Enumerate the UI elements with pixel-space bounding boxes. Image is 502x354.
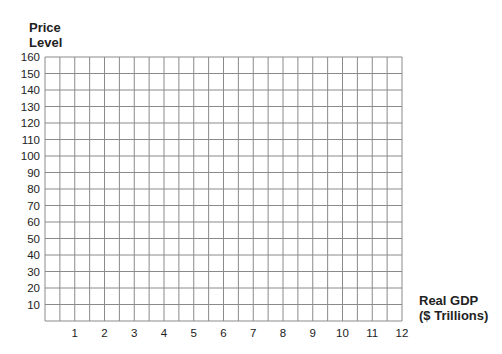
y-tick-label: 50: [0, 233, 40, 245]
x-tick-label: 9: [298, 327, 328, 339]
x-tick-label: 8: [268, 327, 298, 339]
x-tick-label: 1: [60, 327, 90, 339]
y-tick-label: 120: [0, 117, 40, 129]
y-tick-label: 110: [0, 134, 40, 146]
y-tick-label: 100: [0, 150, 40, 162]
y-tick-label: 80: [0, 183, 40, 195]
x-tick-label: 11: [357, 327, 387, 339]
x-tick-label: 6: [209, 327, 239, 339]
x-axis-label: Real GDP ($ Trillions): [419, 293, 488, 323]
y-tick-label: 70: [0, 200, 40, 212]
x-tick-label: 5: [179, 327, 209, 339]
x-tick-label: 10: [328, 327, 358, 339]
x-tick-label: 4: [149, 327, 179, 339]
y-tick-label: 30: [0, 266, 40, 278]
y-tick-label: 130: [0, 101, 40, 113]
x-tick-label: 7: [238, 327, 268, 339]
x-axis-label-line-1: Real GDP: [419, 293, 488, 308]
y-tick-label: 20: [0, 282, 40, 294]
y-tick-label: 160: [0, 51, 40, 63]
x-axis-label-line-2: ($ Trillions): [419, 308, 488, 323]
x-tick-label: 12: [387, 327, 417, 339]
y-tick-label: 10: [0, 299, 40, 311]
y-tick-label: 60: [0, 216, 40, 228]
y-tick-label: 40: [0, 249, 40, 261]
x-tick-label: 3: [119, 327, 149, 339]
y-tick-label: 150: [0, 68, 40, 80]
y-tick-label: 90: [0, 167, 40, 179]
y-tick-label: 140: [0, 84, 40, 96]
x-tick-label: 2: [90, 327, 120, 339]
